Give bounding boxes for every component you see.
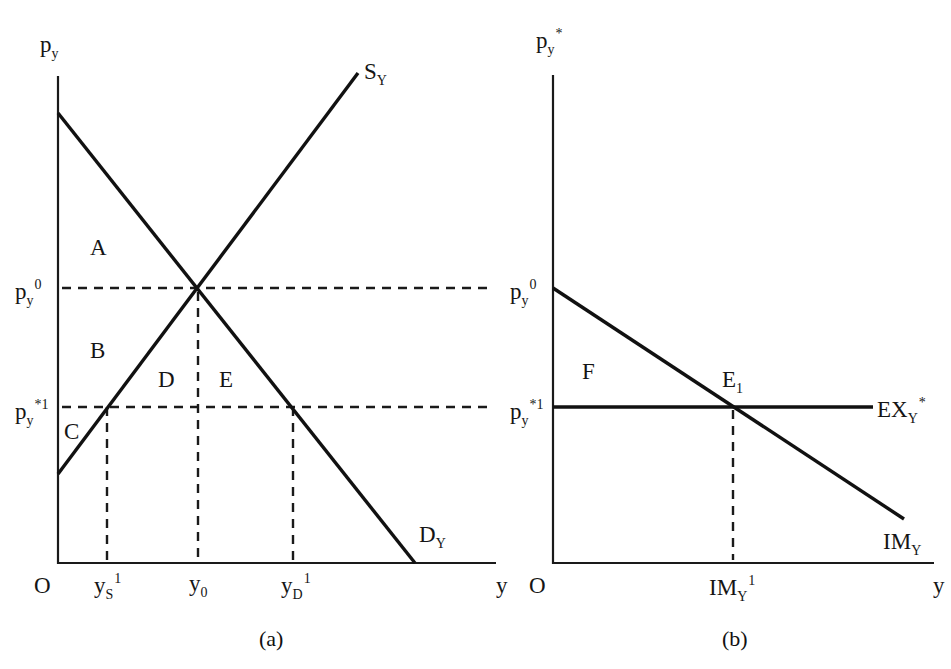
panel-b-axes xyxy=(552,75,934,564)
panel-a-reference-lines xyxy=(62,288,492,560)
panel-b-curves xyxy=(553,288,904,519)
y0-label: y0 xyxy=(189,572,208,600)
supply-curve-label: SY xyxy=(364,60,387,88)
area-label-b: B xyxy=(90,339,105,362)
panel-b-caption: (b) xyxy=(722,626,748,652)
area-label-a: A xyxy=(90,236,107,259)
panel-b-x-axis-label: y xyxy=(933,574,945,597)
panel-b-p0-label: py0 xyxy=(510,278,537,308)
panel-b-origin-label: O xyxy=(529,574,546,597)
panel-a-y-axis-label: py xyxy=(40,33,59,61)
panel-a-p1-label: py*1 xyxy=(15,398,49,428)
panel-a-curves xyxy=(58,73,415,563)
panel-a-x-axis-label: y xyxy=(496,574,508,597)
area-label-f: F xyxy=(582,360,595,383)
export-supply-label: EXY* xyxy=(877,396,926,426)
im1-label: IMY1 xyxy=(709,574,755,604)
panel-b-y-axis-label: py* xyxy=(536,27,563,57)
demand-curve xyxy=(58,113,415,563)
import-demand-curve xyxy=(553,288,904,519)
demand-curve-label: DY xyxy=(419,523,446,551)
panel-b-p1-label: py*1 xyxy=(510,398,544,428)
yd1-label: yD1 xyxy=(281,572,311,602)
area-label-d: D xyxy=(158,368,175,391)
panel-a-p0-label: py0 xyxy=(15,278,42,308)
panel-a-caption: (a) xyxy=(259,626,283,652)
ys1-label: yS1 xyxy=(94,572,121,602)
diagram-canvas xyxy=(0,0,951,669)
panel-a-axes xyxy=(57,76,496,564)
area-label-c: C xyxy=(64,420,79,443)
import-demand-label: IMY xyxy=(883,530,921,558)
area-label-e: E xyxy=(219,368,233,391)
panel-a-origin-label: O xyxy=(34,574,51,597)
equilibrium-point-label: E1 xyxy=(722,368,743,396)
supply-curve xyxy=(58,73,358,474)
